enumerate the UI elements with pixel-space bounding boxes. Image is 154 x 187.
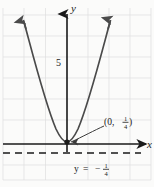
vertex-point-marker (64, 139, 69, 144)
y-axis-label: y (70, 2, 76, 14)
vertex-annotation-close: ) (129, 117, 132, 128)
directrix-equation-minus: − (95, 164, 100, 174)
figure-background (0, 0, 154, 187)
vertex-annotation-numerator: 1 (124, 115, 127, 122)
parabola-figure: y x 5 (0, 1 4 ) y = − 1 4 (0, 0, 154, 187)
vertex-annotation-open: (0, (104, 117, 114, 128)
directrix-equation-numerator: 1 (104, 162, 107, 169)
directrix-equation-equals: = (83, 164, 88, 174)
x-axis-label: x (146, 138, 152, 150)
y-tick-label-5: 5 (56, 57, 61, 68)
directrix-equation-variable: y (74, 164, 79, 174)
